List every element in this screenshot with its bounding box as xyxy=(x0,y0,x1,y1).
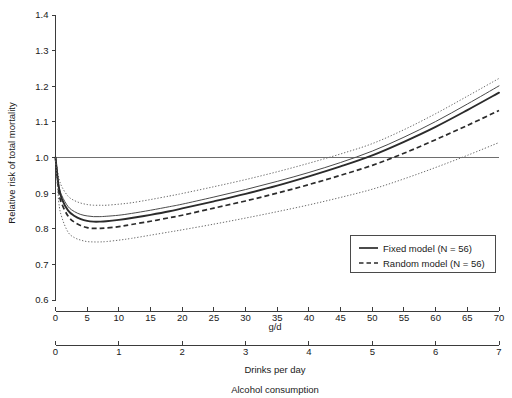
legend-label-fixed-model: Fixed model (N = 56) xyxy=(383,243,472,254)
x-axis-1-tick-label: 15 xyxy=(145,312,156,323)
x-axis-2-tick-label: 1 xyxy=(116,346,121,357)
y-tick-label: 0.6 xyxy=(35,294,48,305)
x-axis-1-tick-label: 25 xyxy=(209,312,220,323)
x-axis-1-tick-label: 10 xyxy=(114,312,125,323)
x-axis-1-tick-label: 5 xyxy=(85,312,90,323)
y-axis-label: Relative risk of total mortality xyxy=(6,102,17,224)
x-axis-1-tick-label: 60 xyxy=(430,312,441,323)
x-axis-1-tick-label: 45 xyxy=(335,312,346,323)
y-tick-label: 0.8 xyxy=(35,223,48,234)
legend[interactable]: Fixed model (N = 56) Random model (N = 5… xyxy=(351,236,496,273)
x-axis-drinks-per-day: 01234567 xyxy=(53,341,502,357)
chart-svg: Relative risk of total mortality 0.60.70… xyxy=(0,0,512,398)
x-axis-2-tick-label: 7 xyxy=(496,346,501,357)
x-axis-1-tick-label: 70 xyxy=(494,312,505,323)
x-axis-2-tick-label: 4 xyxy=(306,346,311,357)
x-axis-1-tick-label: 55 xyxy=(399,312,410,323)
y-axis: 0.60.70.80.91.01.11.21.31.4 xyxy=(35,9,55,305)
curve-random-model-upper-bound-curve xyxy=(56,86,500,217)
x-axis-1-tick-label: 30 xyxy=(240,312,251,323)
x-axis-1-tick-label: 40 xyxy=(304,312,315,323)
y-tick-label: 1.0 xyxy=(35,152,48,163)
x-axis-1-tick-label: 0 xyxy=(53,312,58,323)
x-axis-2-tick-label: 5 xyxy=(370,346,375,357)
x-axis-1-tick-label: 65 xyxy=(462,312,473,323)
x-axis-2-tick-label: 3 xyxy=(243,346,248,357)
y-tick-label: 1.3 xyxy=(35,45,48,56)
alcohol-mortality-chart: Relative risk of total mortality 0.60.70… xyxy=(0,0,512,398)
overall-axis-label: Alcohol consumption xyxy=(231,384,319,395)
x-axis-1-tick-label: 20 xyxy=(177,312,188,323)
x-axis-2-tick-label: 6 xyxy=(433,346,438,357)
y-tick-label: 0.9 xyxy=(35,188,48,199)
y-tick-label: 1.4 xyxy=(35,9,48,20)
y-tick-label: 0.7 xyxy=(35,259,48,270)
x-axis-label-grams-per-day: g/d xyxy=(268,321,281,332)
x-axis-label-drinks-per-day: Drinks per day xyxy=(244,364,305,375)
x-axis-1-tick-label: 50 xyxy=(367,312,378,323)
x-axis-2-tick-label: 0 xyxy=(53,346,58,357)
x-axis-2-tick-label: 2 xyxy=(180,346,185,357)
curve-series-group xyxy=(56,78,500,242)
legend-label-random-model: Random model (N = 56) xyxy=(383,258,485,269)
y-tick-label: 1.2 xyxy=(35,81,48,92)
y-tick-label: 1.1 xyxy=(35,116,48,127)
